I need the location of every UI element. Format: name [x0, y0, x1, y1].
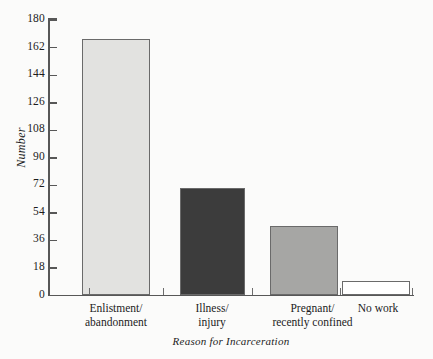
- x-axis-category-label-line: Illness/: [160, 301, 264, 315]
- y-axis-tick-mark: [49, 130, 57, 131]
- x-axis-category-label: No work: [340, 301, 416, 315]
- y-axis-tick-label: 162: [1, 40, 45, 52]
- y-axis-tick-label: 0: [1, 288, 45, 300]
- x-axis-category-label-line: injury: [160, 315, 264, 329]
- y-axis-tick-mark: [49, 185, 57, 186]
- x-axis-tick-mark: [412, 288, 413, 295]
- x-axis-tick-mark: [163, 288, 164, 295]
- bar: [180, 188, 245, 295]
- y-axis-tick-mark: [49, 267, 57, 268]
- x-axis-category-label-line: No work: [340, 301, 416, 315]
- x-axis-tick-mark: [89, 288, 90, 295]
- y-axis-tick-mark: [49, 157, 57, 158]
- x-axis-category-label-line: abandonment: [55, 315, 177, 329]
- x-axis-category-label-line: recently confined: [250, 315, 375, 329]
- y-axis-tick-label: 18: [1, 260, 45, 272]
- x-axis-category-label: Enlistment/abandonment: [55, 301, 177, 329]
- y-axis-tick-mark: [49, 47, 57, 48]
- bar: [82, 39, 150, 295]
- y-axis-tick-mark: [49, 102, 57, 103]
- bar: [342, 281, 410, 295]
- y-axis-tick-label: 126: [1, 95, 45, 107]
- y-axis-tick-mark: [49, 75, 57, 76]
- bar: [270, 226, 338, 295]
- y-axis-tick-mark: [49, 212, 57, 213]
- x-axis-title: Reason for Incarceration: [48, 335, 414, 347]
- y-axis-tick-mark: [49, 295, 57, 296]
- y-axis-tick-label: 144: [1, 67, 45, 79]
- x-axis-category-label-line: Enlistment/: [55, 301, 177, 315]
- bar-chart: 01836547290108126144162180 Number Enlist…: [0, 0, 433, 359]
- y-axis-tick-label: 36: [1, 232, 45, 244]
- y-axis-title: Number: [14, 113, 29, 183]
- y-axis-tick-label: 180: [1, 12, 45, 24]
- x-axis-category-label: Illness/injury: [160, 301, 264, 329]
- x-axis-tick-mark: [252, 288, 253, 295]
- y-axis-tick-label: 54: [1, 205, 45, 217]
- y-axis-tick-mark: [49, 240, 57, 241]
- x-axis-tick-mark: [340, 288, 341, 295]
- y-axis-tick-mark: [49, 20, 57, 21]
